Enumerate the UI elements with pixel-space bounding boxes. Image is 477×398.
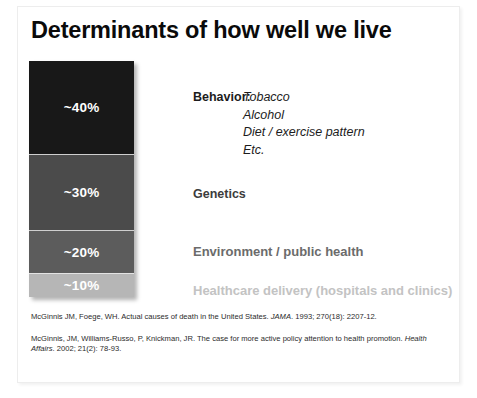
citation-item: McGinnis, JM, Williams-Russo, P, Knickma… [31,334,451,355]
page-title: Determinants of how well we live [31,17,451,44]
citation-text-after: . 2002; 21(2): 78-93. [53,344,122,353]
bar-segment-label: ~40% [64,100,100,115]
behavior-item: Etc. [243,142,365,160]
slide-frame: Determinants of how well we live ~40% ~3… [17,6,460,383]
category-label-behavior: Behavior: [193,90,251,104]
behavior-item: Alcohol [243,107,365,125]
bar-segment-genetics: ~30% [29,154,134,230]
bar-segment-label: ~30% [64,185,100,200]
bar-segment-label: ~10% [64,278,100,293]
behavior-item-list: Tobacco Alcohol Diet / exercise pattern … [243,89,365,159]
behavior-item: Diet / exercise pattern [243,124,365,142]
citation-journal: JAMA [271,312,291,321]
citation-item: McGinnis JM, Foege, WH. Actual causes of… [31,312,451,323]
category-label-environment: Environment / public health [193,244,363,259]
bar-segment-label: ~20% [64,245,100,260]
category-label-healthcare: Healthcare delivery (hospitals and clini… [193,283,452,298]
behavior-item: Tobacco [243,89,365,107]
bar-segment-behavior: ~40% [29,61,134,154]
citation-text-after: . 1993; 270(18): 2207-12. [291,312,377,321]
bar-segment-environment: ~20% [29,230,134,273]
citation-text-before: McGinnis JM, Foege, WH. Actual causes of… [31,312,271,321]
citation-text-before: McGinnis, JM, Williams-Russo, P, Knickma… [31,334,405,343]
stacked-bar-chart: ~40% ~30% ~20% ~10% [29,61,134,297]
category-label-genetics: Genetics [193,187,246,201]
citation-list: McGinnis JM, Foege, WH. Actual causes of… [31,312,451,366]
bar-segment-healthcare: ~10% [29,273,134,297]
